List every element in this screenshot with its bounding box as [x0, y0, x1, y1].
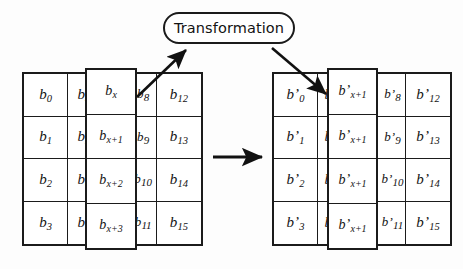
selected-cell: b’x+1: [329, 204, 376, 249]
transformation-label: Transformation: [174, 20, 284, 36]
cell-label: b’x+1: [338, 217, 366, 234]
cell-label: b’x+1: [338, 172, 366, 189]
cell-label: b’3: [286, 214, 304, 232]
table-cell: b’13: [406, 117, 450, 160]
cell-label: b12: [170, 86, 188, 104]
diagram-canvas: Transformation b0 b4 b8 b12 b1 b5 b9 b13…: [0, 0, 463, 269]
cell-label: b’9: [384, 129, 401, 146]
cell-label: bx+3: [99, 217, 122, 234]
cell-label: b11: [135, 214, 152, 231]
cell-label: b’13: [416, 128, 439, 146]
cell-label: b’x+1: [338, 128, 366, 145]
table-cell: b’1: [274, 117, 318, 160]
selected-cell: bx+2: [87, 159, 135, 204]
table-cell: b0: [24, 74, 68, 117]
selected-column-after[interactable]: b’x+1 b’x+1 b’x+1 b’x+1: [327, 68, 378, 250]
selected-cell: b’x+1: [329, 70, 376, 115]
cell-label: bx+2: [99, 172, 122, 189]
table-cell: b’12: [406, 74, 450, 117]
cell-label: b’11: [382, 214, 403, 231]
cell-label: b’14: [416, 171, 439, 189]
cell-label: b9: [137, 129, 149, 146]
table-cell: b15: [157, 202, 201, 245]
table-cell: b’14: [406, 159, 450, 202]
cell-label: b3: [39, 214, 52, 232]
selected-cell: b’x+1: [329, 115, 376, 160]
cell-label: b’8: [384, 86, 401, 103]
cell-label: b13: [170, 128, 188, 146]
cell-label: b15: [170, 214, 188, 232]
cell-label: b14: [170, 171, 188, 189]
selected-column-before[interactable]: bx bx+1 bx+2 bx+3: [85, 68, 137, 250]
selected-cell: bx+3: [87, 204, 135, 249]
cell-label: b8: [137, 86, 149, 103]
table-cell: b’15: [406, 202, 450, 245]
transformation-pill[interactable]: Transformation: [163, 12, 295, 44]
cell-label: bx: [105, 83, 117, 100]
table-cell: b2: [24, 159, 68, 202]
table-cell: b’0: [274, 74, 318, 117]
selected-cell: bx: [87, 70, 135, 115]
table-cell: b1: [24, 117, 68, 160]
table-cell: b13: [157, 117, 201, 160]
cell-label: b2: [39, 171, 52, 189]
table-cell: b12: [157, 74, 201, 117]
cell-label: b’0: [286, 86, 304, 104]
cell-label: b0: [39, 86, 52, 104]
table-cell: b14: [157, 159, 201, 202]
cell-label: b’1: [286, 128, 304, 146]
selected-cell: b’x+1: [329, 159, 376, 204]
cell-label: b’2: [286, 171, 304, 189]
cell-label: b’x+1: [338, 83, 366, 100]
cell-label: b’10: [381, 171, 403, 188]
table-cell: b’2: [274, 159, 318, 202]
selected-cell: bx+1: [87, 115, 135, 160]
table-cell: b3: [24, 202, 68, 245]
table-cell: b’3: [274, 202, 318, 245]
cell-label: b’15: [416, 214, 439, 232]
cell-label: b’12: [416, 86, 439, 104]
cell-label: b1: [39, 128, 52, 146]
cell-label: bx+1: [99, 128, 122, 145]
